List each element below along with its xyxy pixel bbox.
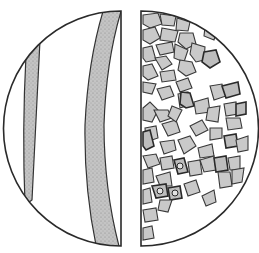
- thin-fiber: [24, 40, 40, 205]
- left-panel-fibers: [3, 8, 122, 250]
- right-panel-particles: [141, 11, 258, 246]
- wide-fiber: [85, 8, 122, 250]
- split-circle-figure: Split circle comparing fibrous strands (…: [0, 0, 259, 253]
